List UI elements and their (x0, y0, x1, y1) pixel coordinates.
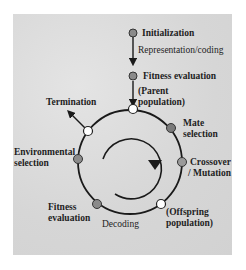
center-cycle-arrow (103, 139, 161, 199)
label-offspring-1: (Offspring (166, 207, 209, 218)
label-environmental-selection-1: Environmental (14, 147, 75, 158)
label-offspring-2: population) (166, 218, 213, 229)
node-termination (84, 127, 93, 136)
node-fitness-entry (129, 72, 137, 80)
label-crossover-2: / Mutation (188, 168, 231, 179)
node-crossover (178, 158, 187, 167)
node-initialization (129, 29, 137, 37)
label-parent-population-2: population) (138, 97, 185, 108)
label-fitness-evaluation-entry: Fitness evaluation (143, 71, 216, 82)
label-decoding: Decoding (102, 219, 139, 230)
label-termination: Termination (46, 97, 96, 108)
label-initialization: Initialization (142, 28, 194, 39)
label-mate-selection-2: selection (183, 129, 218, 140)
label-crossover-1: Crossover (190, 157, 231, 168)
label-parent-population-1: (Parent (138, 86, 168, 97)
node-offspring (157, 200, 166, 209)
center-arrowhead-icon (148, 160, 162, 170)
label-fitness-evaluation-1: Fitness (48, 202, 77, 213)
label-fitness-evaluation-2: evaluation (48, 213, 90, 224)
node-fitness-evaluation (93, 200, 102, 209)
node-mate-selection (167, 124, 176, 133)
label-representation: Representation/coding (138, 45, 223, 56)
label-mate-selection-1: Mate (183, 118, 204, 129)
node-parent-population (129, 105, 138, 114)
label-environmental-selection-2: selection (14, 158, 49, 169)
